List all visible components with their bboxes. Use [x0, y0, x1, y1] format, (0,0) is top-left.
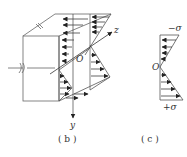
pos-sigma-label: +σ — [163, 102, 178, 112]
tension-arrows — [60, 55, 108, 98]
neg-sigma-label: −σ — [168, 23, 183, 33]
stress-arrows-c — [161, 40, 180, 96]
y-axis-label: y — [69, 120, 76, 130]
origin-label-b: O — [76, 54, 84, 64]
z-axis-label: z — [113, 25, 119, 35]
stress-profile-c — [160, 35, 183, 100]
caption-c: ( c ) — [141, 134, 159, 144]
stress-diagram: z O y ( b ) −σ O +σ ( c ) — [0, 0, 187, 157]
origin-label-c: O — [152, 62, 160, 72]
caption-b: ( b ) — [58, 134, 77, 144]
tension-stress-region — [59, 45, 110, 101]
